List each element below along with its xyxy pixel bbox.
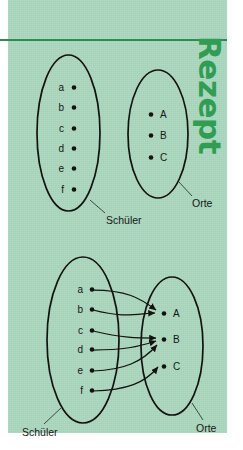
upper-node-label-b: b [58,102,64,113]
upper-node-label-B: B [160,130,167,141]
page-root: Rezept a b c d e f A B [0,0,243,450]
lower-node-label-c: c [78,325,83,336]
lower-node-dot-A [162,311,167,316]
upper-node-label-d: d [58,143,64,154]
upper-node-dot-C [149,155,154,160]
lower-diagram: a b c d e f A B C Schüler Orte [0,248,243,448]
upper-right-set-ellipse [128,70,188,198]
upper-node-dot-e [72,166,77,171]
upper-node-dot-a [72,85,77,90]
lower-node-dot-b [90,307,95,312]
upper-left-set-label: Schüler [106,214,142,226]
upper-left-elements: a b c d e f [58,82,76,195]
arrow-c-to-B [93,331,156,338]
lower-node-label-a: a [77,284,83,295]
lower-node-label-b: b [77,304,83,315]
upper-node-label-C: C [160,152,167,163]
lower-node-dot-e [90,368,95,373]
upper-node-label-c: c [59,123,64,134]
upper-diagram: a b c d e f A B C Schüler Orte [0,0,243,240]
upper-left-set-ellipse [37,55,100,211]
arrow-d-to-B [93,341,156,350]
lower-node-label-A: A [173,308,180,319]
lower-node-label-d: d [77,344,83,355]
upper-node-label-a: a [58,82,64,93]
lower-left-elements: a b c d e f [77,284,94,396]
upper-node-dot-A [149,112,154,117]
lower-node-dot-d [90,347,95,352]
lower-node-dot-c [90,328,95,333]
upper-right-set-label: Orte [192,197,213,209]
lower-node-dot-f [90,388,95,393]
upper-node-label-e: e [58,163,64,174]
upper-node-label-f: f [61,184,64,195]
lower-node-label-C: C [173,361,180,372]
upper-right-set-leader-line [179,182,192,196]
lower-left-set-label: Schüler [22,426,58,438]
upper-node-dot-B [149,133,154,138]
lower-node-dot-C [162,364,167,369]
lower-left-set-leader-line [44,407,62,424]
lower-left-set-ellipse [47,257,119,423]
upper-right-elements: A B C [149,109,168,163]
lower-right-elements: A B C [162,308,181,372]
lower-node-label-B: B [173,334,180,345]
upper-left-set-leader-line [90,200,105,213]
lower-node-dot-a [90,287,95,292]
lower-right-set-leader-line [192,403,203,420]
upper-node-dot-f [72,187,77,192]
lower-node-label-e: e [77,365,83,376]
upper-node-dot-b [72,105,77,110]
lower-right-set-ellipse [141,277,203,415]
upper-node-label-A: A [160,109,167,120]
lower-node-dot-B [162,337,167,342]
upper-node-dot-d [72,146,77,151]
lower-right-set-label: Orte [196,422,217,434]
upper-node-dot-c [72,126,77,131]
lower-node-label-f: f [80,385,83,396]
lower-arrow-group [93,290,158,391]
